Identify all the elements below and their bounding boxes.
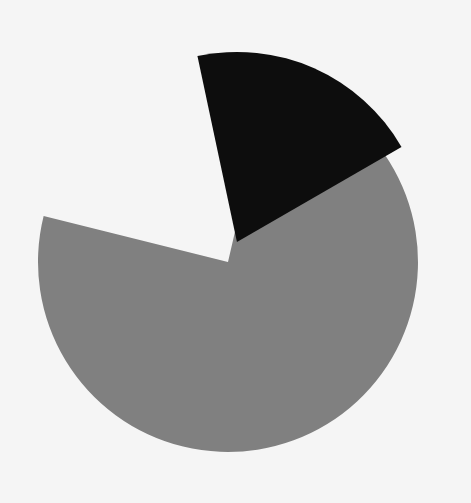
pie-chart-canvas	[0, 0, 471, 503]
pie-chart-figure	[0, 0, 471, 503]
